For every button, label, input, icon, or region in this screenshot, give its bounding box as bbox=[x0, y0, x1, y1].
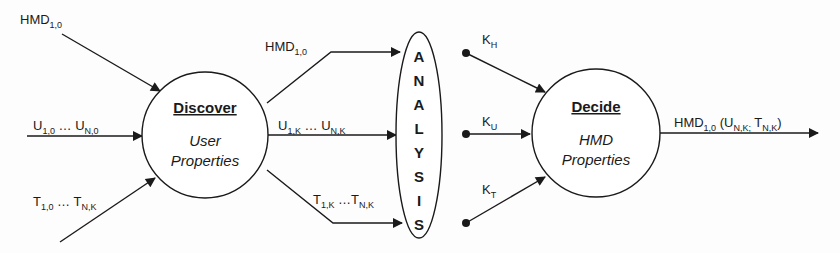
decide-line2: Properties bbox=[562, 151, 631, 168]
output-hmd-label: HMD1,0 bbox=[265, 39, 307, 57]
kt-label: KT bbox=[482, 182, 497, 200]
analysis-letter: A bbox=[414, 96, 425, 113]
decide-line1: HMD bbox=[579, 131, 613, 148]
input-tasks-arrow bbox=[60, 178, 155, 242]
kt-arrow bbox=[466, 177, 545, 223]
final-output-label: HMD1,0 (UN,K; TN,K) bbox=[674, 115, 782, 133]
input-hmd-arrow bbox=[62, 34, 160, 91]
discover-line2: Properties bbox=[171, 152, 240, 169]
analysis-letter: I bbox=[417, 192, 421, 209]
discover-line1: User bbox=[189, 132, 222, 149]
input-tasks-label: T1,0 … TN,K bbox=[33, 194, 96, 212]
analysis-letter: N bbox=[414, 72, 425, 89]
kh-label: KH bbox=[482, 32, 497, 50]
ku-label: KU bbox=[482, 114, 497, 132]
decide-title: Decide bbox=[571, 98, 620, 115]
analysis-letter: A bbox=[414, 48, 425, 65]
analysis-letter: S bbox=[414, 168, 424, 185]
diagram-canvas: HMD1,0 U1,0 … UN,0 T1,0 … TN,K Discover … bbox=[0, 0, 840, 253]
input-users-label: U1,0 … UN,0 bbox=[33, 118, 99, 136]
analysis-letter: L bbox=[414, 120, 423, 137]
output-tasks-label: T1,K …TN,K bbox=[313, 192, 374, 210]
input-hmd-label: HMD1,0 bbox=[20, 12, 62, 30]
output-users-label: U1,K … UN,K bbox=[278, 118, 346, 136]
diagram-svg: HMD1,0 U1,0 … UN,0 T1,0 … TN,K Discover … bbox=[0, 0, 840, 253]
kh-arrow bbox=[466, 53, 545, 92]
discover-title: Discover bbox=[173, 99, 237, 116]
analysis-letter: S bbox=[414, 216, 424, 233]
analysis-letter: Y bbox=[414, 144, 424, 161]
output-hmd-arrow bbox=[267, 52, 400, 103]
